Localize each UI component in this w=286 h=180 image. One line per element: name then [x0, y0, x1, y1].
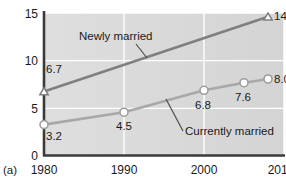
value-label-14-6: 14.6 [274, 10, 286, 22]
x-tick-label-1990: 1990 [111, 163, 138, 177]
data-point-currently-married-1990 [120, 108, 128, 116]
x-tick-label-1980: 1980 [31, 163, 58, 177]
data-point-currently-married-2005 [240, 79, 248, 87]
y-tick-label-0: 0 [31, 149, 38, 163]
panel-label: (a) [3, 164, 17, 176]
chart-container: 15 10 5 0 1980 1990 2000 2010 (a) 6.7 1 [0, 0, 286, 180]
data-point-currently-married-1980 [40, 121, 48, 129]
value-label-3-2: 3.2 [46, 130, 62, 142]
x-tick-label-2000: 2000 [191, 163, 218, 177]
value-label-6-8: 6.8 [195, 99, 211, 111]
x-tick-label-2010: 2010 [268, 163, 286, 177]
data-point-currently-married-2000 [200, 86, 208, 94]
series-annotation-currently-married: Currently married [185, 125, 274, 137]
value-label-4-5: 4.5 [116, 120, 132, 132]
y-tick-label-10: 10 [25, 54, 39, 68]
line-chart: 15 10 5 0 1980 1990 2000 2010 (a) 6.7 1 [0, 0, 286, 180]
y-tick-label-5: 5 [31, 102, 38, 116]
y-tick-label-15: 15 [25, 7, 39, 21]
data-point-currently-married-2008 [264, 75, 272, 83]
value-label-8-0: 8.0 [274, 73, 286, 85]
value-label-6-7: 6.7 [46, 63, 62, 75]
value-label-7-6: 7.6 [235, 91, 251, 103]
series-annotation-newly-married: Newly married [79, 30, 153, 42]
